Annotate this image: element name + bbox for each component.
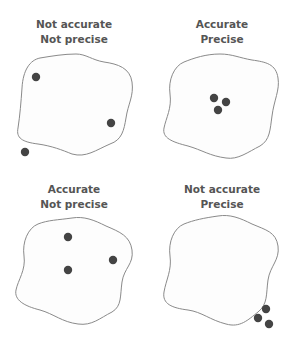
target-blob [148,172,296,344]
hit-dot [265,320,273,328]
hit-dot [21,148,29,156]
target-blob [0,0,148,172]
panel-accurate-not-precise: Accurate Not precise [0,172,148,344]
target-blob [148,0,296,172]
panel-not-accurate-not-precise: Not accurate Not precise [0,0,148,172]
hit-dot [210,94,218,102]
target-blob [0,172,148,344]
panel-not-accurate-precise: Not accurate Precise [148,172,296,344]
hit-dot [262,305,270,313]
hit-dot [64,266,72,274]
hit-dot [214,106,222,114]
hit-dot [222,98,230,106]
hit-dot [109,256,117,264]
panel-accurate-precise: Accurate Precise [148,0,296,172]
hit-dot [254,314,262,322]
hit-dot [32,73,40,81]
hit-dot [107,119,115,127]
hit-dot [64,233,72,241]
